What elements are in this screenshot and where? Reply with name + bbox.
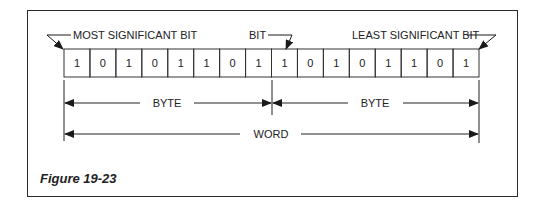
byte-left-label: BYTE bbox=[153, 97, 182, 109]
bit-value: 1 bbox=[385, 57, 391, 69]
msb-pointer-icon bbox=[47, 35, 71, 49]
bit-value: 1 bbox=[74, 57, 80, 69]
bit-value: 1 bbox=[463, 57, 469, 69]
figure-container: 1010110110101101 MOST SIGNIFICANT BIT BI… bbox=[0, 0, 548, 210]
bit-value: 1 bbox=[281, 57, 287, 69]
bit-value: 1 bbox=[126, 57, 132, 69]
bit-value: 0 bbox=[307, 57, 313, 69]
word-label: WORD bbox=[254, 128, 289, 140]
bit-value: 1 bbox=[255, 57, 261, 69]
bit-value: 1 bbox=[204, 57, 210, 69]
bit-value: 0 bbox=[152, 57, 158, 69]
figure-caption: Figure 19-23 bbox=[40, 171, 117, 186]
bit-value: 0 bbox=[230, 57, 236, 69]
bit-value: 0 bbox=[359, 57, 365, 69]
bit-value: 1 bbox=[333, 57, 339, 69]
bit-label: BIT bbox=[249, 29, 266, 41]
bit-pointer-icon bbox=[268, 35, 292, 49]
bit-value: 0 bbox=[100, 57, 106, 69]
bit-value: 1 bbox=[411, 57, 417, 69]
bit-value: 0 bbox=[437, 57, 443, 69]
msb-label: MOST SIGNIFICANT BIT bbox=[73, 29, 198, 41]
byte-right-label: BYTE bbox=[361, 97, 390, 109]
lsb-label: LEAST SIGNIFICANT BIT bbox=[352, 29, 480, 41]
bit-value: 1 bbox=[178, 57, 184, 69]
